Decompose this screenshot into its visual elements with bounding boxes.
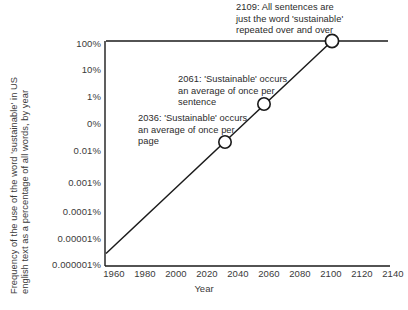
- y-tick-1pct: 1%: [87, 92, 101, 102]
- annotation-2061: 2061: 'Sustainable' occurs an average of…: [178, 74, 287, 109]
- x-tick-2020: 2020: [191, 268, 223, 279]
- annotation-2036-line2: an average of once per: [138, 125, 247, 137]
- annotation-2036: 2036: 'Sustainable' occurs an average of…: [138, 113, 247, 148]
- y-tick-0-000001pct: 0.000001%: [52, 260, 101, 270]
- annotation-2109-line1: 2109: All sentences are: [236, 2, 343, 14]
- y-tick-10pct: 10%: [82, 65, 101, 75]
- annotation-2109-line2: just the word 'sustainable': [236, 14, 343, 26]
- y-tick-0-001pct: 0.001%: [68, 178, 101, 188]
- x-tick-2140: 2140: [377, 268, 408, 279]
- x-tick-2040: 2040: [222, 268, 254, 279]
- annotation-2061-line3: sentence: [178, 97, 287, 109]
- y-axis-title-line2: english text as a percentage of all word…: [20, 12, 32, 294]
- annotation-2036-line3: page: [138, 136, 247, 148]
- x-tick-2080: 2080: [284, 268, 316, 279]
- y-tick-0-0001pct: 0.0001%: [63, 207, 101, 217]
- y-tick-0-01pct: 0.01%: [74, 146, 101, 156]
- y-tick-100pct: 100%: [76, 39, 101, 49]
- x-tick-1960: 1960: [98, 268, 130, 279]
- x-tick-2000: 2000: [160, 268, 192, 279]
- annotation-2036-line1: 2036: 'Sustainable' occurs: [138, 113, 247, 125]
- annotation-2109: 2109: All sentences are just the word 's…: [236, 2, 343, 37]
- x-tick-2060: 2060: [253, 268, 285, 279]
- y-tick-0-00001pct: 0.00001%: [57, 234, 101, 244]
- x-tick-2100: 2100: [315, 268, 347, 279]
- annotation-2061-line1: 2061: 'Sustainable' occurs: [178, 74, 287, 86]
- x-axis-title: Year: [0, 283, 408, 294]
- annotation-2061-line2: an average of once per: [178, 86, 287, 98]
- x-tick-2120: 2120: [346, 268, 378, 279]
- chart-container: 100% 10% 1% 0% 0.01% 0.001% 0.0001% 0.00…: [0, 0, 408, 310]
- y-axis-title: Frequency of the use of the word 'sustai…: [0, 0, 40, 310]
- annotation-2109-line3: repeated over and over: [236, 25, 343, 37]
- x-tick-1980: 1980: [129, 268, 161, 279]
- y-tick-0pct: 0%: [87, 119, 101, 129]
